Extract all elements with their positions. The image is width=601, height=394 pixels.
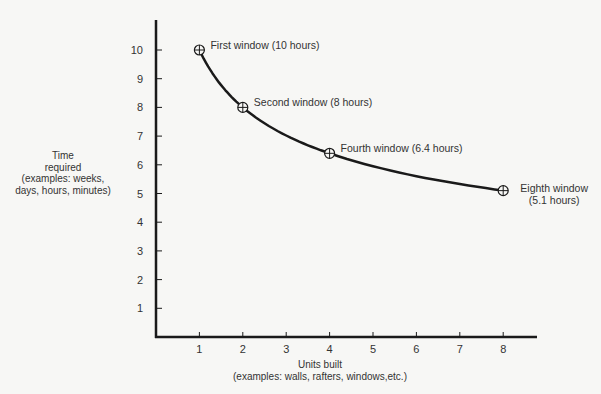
y-tick-label: 5	[137, 188, 143, 200]
learning-curve-line	[199, 50, 503, 191]
x-tick-label: 7	[457, 343, 463, 355]
y-tick-label: 7	[137, 130, 143, 142]
data-point-annotation: Second window (8 hours)	[254, 96, 372, 108]
y-axis-label-line: required	[0, 162, 126, 174]
y-tick-label: 3	[137, 245, 143, 257]
y-axis-label-line: Time	[0, 150, 126, 162]
data-point-annotation: Fourth window (6.4 hours)	[341, 142, 463, 154]
learning-curve-chart: 1234567891012345678First window (10 hour…	[0, 0, 601, 394]
data-point-annotation: (5.1 hours)	[529, 194, 580, 206]
x-tick-label: 1	[196, 343, 202, 355]
x-tick-label: 2	[240, 343, 246, 355]
x-tick-label: 5	[370, 343, 376, 355]
y-tick-label: 9	[137, 73, 143, 85]
x-axis-subtitle: (examples: walls, rafters, windows,etc.)	[160, 371, 480, 383]
y-tick-label: 6	[137, 159, 143, 171]
x-axis-title: Units built	[160, 359, 480, 371]
y-axis-label-line: days, hours, minutes)	[0, 185, 126, 197]
y-tick-label: 4	[137, 216, 143, 228]
y-tick-label: 8	[137, 101, 143, 113]
x-tick-label: 8	[500, 343, 506, 355]
x-tick-label: 3	[283, 343, 289, 355]
x-axis-label: Units built (examples: walls, rafters, w…	[160, 359, 480, 382]
y-axis-label: Time required (examples: weeks, days, ho…	[0, 150, 126, 196]
y-tick-label: 10	[131, 44, 143, 56]
data-point-annotation: Eighth window	[520, 182, 588, 194]
data-point-annotation: First window (10 hours)	[210, 39, 319, 51]
x-tick-label: 4	[327, 343, 333, 355]
y-axis-label-line: (examples: weeks,	[0, 173, 126, 185]
y-tick-label: 1	[137, 302, 143, 314]
x-tick-label: 6	[413, 343, 419, 355]
y-tick-label: 2	[137, 274, 143, 286]
